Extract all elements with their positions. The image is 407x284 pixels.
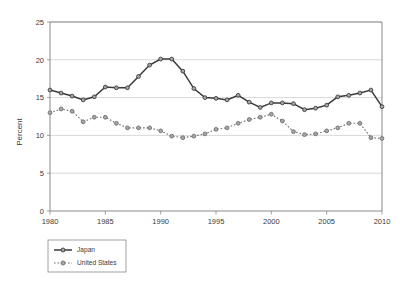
legend-label: United States bbox=[77, 259, 117, 266]
data-point bbox=[126, 126, 130, 130]
data-point bbox=[48, 88, 52, 92]
data-point bbox=[59, 91, 63, 95]
series-japan bbox=[48, 57, 384, 111]
axis-lines bbox=[50, 22, 382, 211]
data-point bbox=[159, 129, 163, 133]
data-point bbox=[203, 96, 207, 100]
data-point bbox=[380, 137, 384, 141]
data-point bbox=[314, 132, 318, 136]
data-point bbox=[115, 121, 119, 125]
data-point bbox=[358, 121, 362, 125]
data-point bbox=[269, 101, 273, 105]
data-point bbox=[192, 87, 196, 91]
data-point bbox=[236, 121, 240, 125]
data-point bbox=[192, 134, 196, 138]
data-point bbox=[258, 115, 262, 119]
x-tick-label: 2000 bbox=[263, 217, 280, 226]
x-tick-label: 2005 bbox=[318, 217, 335, 226]
data-point bbox=[336, 95, 340, 99]
line-chart: 0510152025 1980198519901995200020052010 … bbox=[0, 0, 407, 284]
data-point bbox=[214, 127, 218, 131]
y-tick-label: 10 bbox=[36, 131, 44, 140]
data-point bbox=[59, 107, 63, 111]
data-point bbox=[81, 98, 85, 102]
data-series-layer bbox=[48, 57, 384, 140]
data-point bbox=[281, 101, 285, 105]
data-point bbox=[358, 91, 362, 95]
data-point bbox=[314, 106, 318, 110]
data-point bbox=[181, 136, 185, 140]
data-point bbox=[92, 95, 96, 99]
data-point bbox=[247, 118, 251, 122]
y-tick-label: 25 bbox=[36, 18, 44, 27]
data-point bbox=[137, 126, 141, 130]
x-tick-label: 1990 bbox=[152, 217, 169, 226]
data-point bbox=[325, 129, 329, 133]
data-point bbox=[148, 126, 152, 130]
data-point bbox=[247, 100, 251, 104]
data-point bbox=[292, 130, 296, 134]
data-point bbox=[380, 105, 384, 109]
legend-box bbox=[48, 240, 126, 272]
x-tick-label: 2010 bbox=[374, 217, 391, 226]
x-tick-label: 1980 bbox=[42, 217, 59, 226]
y-tick-label: 15 bbox=[36, 93, 44, 102]
data-point bbox=[336, 126, 340, 130]
data-point bbox=[103, 115, 107, 119]
chart-legend: JapanUnited States bbox=[48, 240, 126, 272]
data-point bbox=[225, 98, 229, 102]
y-axis-title: Percent bbox=[15, 117, 24, 145]
data-point bbox=[347, 121, 351, 125]
data-point bbox=[92, 115, 96, 119]
data-point bbox=[347, 93, 351, 97]
data-point bbox=[159, 57, 163, 61]
data-point bbox=[258, 106, 262, 110]
data-point bbox=[236, 93, 240, 97]
data-point bbox=[103, 85, 107, 89]
legend-marker bbox=[61, 248, 65, 252]
data-point bbox=[181, 69, 185, 73]
data-point bbox=[203, 132, 207, 136]
data-point bbox=[115, 86, 119, 90]
data-point bbox=[292, 102, 296, 106]
x-axis-ticks: 1980198519901995200020052010 bbox=[42, 211, 391, 226]
data-point bbox=[170, 57, 174, 61]
data-point bbox=[137, 75, 141, 79]
data-point bbox=[70, 94, 74, 98]
data-point bbox=[225, 126, 229, 130]
data-point bbox=[281, 119, 285, 123]
series-line bbox=[50, 59, 382, 110]
data-point bbox=[303, 108, 307, 112]
data-point bbox=[325, 103, 329, 107]
data-point bbox=[269, 112, 273, 116]
data-point bbox=[148, 63, 152, 67]
legend-label: Japan bbox=[77, 246, 95, 254]
x-tick-label: 1985 bbox=[97, 217, 114, 226]
y-axis-ticks: 0510152025 bbox=[36, 18, 50, 216]
data-point bbox=[170, 134, 174, 138]
data-point bbox=[81, 120, 85, 124]
legend-marker bbox=[61, 261, 65, 265]
series-line bbox=[50, 109, 382, 138]
data-point bbox=[303, 133, 307, 137]
data-point bbox=[214, 96, 218, 100]
y-tick-label: 0 bbox=[40, 207, 44, 216]
data-point bbox=[369, 88, 373, 92]
data-point bbox=[70, 109, 74, 113]
x-tick-label: 1995 bbox=[208, 217, 225, 226]
y-tick-label: 5 bbox=[40, 169, 44, 178]
data-point bbox=[48, 111, 52, 115]
data-point bbox=[126, 86, 130, 90]
y-tick-label: 20 bbox=[36, 56, 44, 65]
data-point bbox=[369, 136, 373, 140]
chart-container: 0510152025 1980198519901995200020052010 … bbox=[0, 0, 407, 284]
